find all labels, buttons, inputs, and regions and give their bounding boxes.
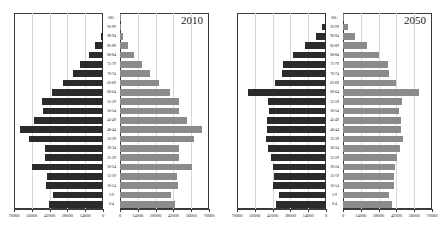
x-axis-tick (361, 209, 362, 212)
bar-female (343, 182, 394, 189)
age-group-label: 85-89 (326, 41, 343, 50)
age-group-label: 50-54 (326, 106, 343, 115)
bar-male (316, 33, 326, 40)
age-group-label: 90-94 (326, 32, 343, 41)
bar-female (343, 42, 367, 49)
age-group-label: 80-84 (326, 50, 343, 59)
bar-female (343, 164, 395, 171)
pyramid-row: 60-64 (14, 88, 209, 97)
bar-female (120, 136, 194, 143)
pyramid-row: 20-24 (237, 162, 432, 171)
bar-female (120, 61, 142, 68)
pyramid-row: 10-14 (237, 181, 432, 190)
bar-male (273, 182, 326, 189)
pyramid-row: 65-69 (237, 78, 432, 87)
x-axis-tick-label: 28000 (373, 213, 384, 218)
bar-male (32, 164, 103, 171)
age-group-label: 5-9 (326, 190, 343, 199)
x-axis-tick (308, 209, 309, 212)
bar-female (120, 24, 121, 31)
x-axis-male-2050 (237, 209, 326, 210)
age-group-label: 40-44 (103, 125, 120, 134)
x-axis-tick (173, 209, 174, 212)
bar-female (120, 98, 179, 105)
bar-male (275, 80, 326, 87)
x-axis-tick (237, 209, 238, 212)
pyramid-row: 70-74 (237, 69, 432, 78)
bar-male (267, 126, 326, 133)
age-group-label: 100+ (326, 13, 343, 22)
bar-male (283, 61, 326, 68)
bar-male (46, 182, 103, 189)
bar-female (343, 61, 388, 68)
pyramid-row: 90-94 (14, 32, 209, 41)
bar-female (343, 145, 400, 152)
bar-male (29, 136, 103, 143)
age-group-label: 5-9 (103, 190, 120, 199)
age-group-label: 90-94 (103, 32, 120, 41)
bar-male (63, 80, 103, 87)
age-group-label: 45-49 (103, 116, 120, 125)
age-group-label: 15-19 (103, 172, 120, 181)
bar-male (89, 52, 103, 59)
pyramid-row: 5-9 (237, 190, 432, 199)
pyramid-row: 15-19 (14, 172, 209, 181)
pyramid-row: 40-44 (237, 125, 432, 134)
age-group-label: 25-29 (103, 153, 120, 162)
pyramid-row: 55-59 (14, 97, 209, 106)
bar-female (343, 98, 402, 105)
bar-female (120, 182, 178, 189)
pyramid-row: 55-59 (237, 97, 432, 106)
age-group-label: 75-79 (326, 60, 343, 69)
pyramid-row: 75-79 (14, 60, 209, 69)
age-group-label: 65-69 (326, 78, 343, 87)
pyramid-row: 100+ (237, 13, 432, 22)
x-axis-tick-label: 0 (119, 213, 121, 218)
x-axis-tick-label: 14000 (355, 213, 366, 218)
bar-rows-2010: 100+95-9990-9485-8980-8475-7970-7465-696… (14, 13, 209, 209)
bar-male (271, 154, 326, 161)
x-axis-tick (273, 209, 274, 212)
pyramid-row: 35-39 (14, 134, 209, 143)
age-group-label: 0-4 (326, 200, 343, 209)
bar-female (120, 192, 171, 199)
bar-male (47, 173, 103, 180)
pyramid-row: 30-34 (14, 144, 209, 153)
bar-male (248, 89, 326, 96)
pyramid-row: 50-54 (237, 106, 432, 115)
year-label-2010: 2010 (181, 14, 203, 26)
x-axis-tick (85, 209, 86, 212)
x-axis-tick (14, 209, 15, 212)
x-axis-tick (103, 209, 104, 212)
bar-male (34, 117, 103, 124)
x-axis-tick (343, 209, 344, 212)
x-axis-tick-label: 56000 (409, 213, 420, 218)
x-axis-tick-label: 56000 (26, 213, 37, 218)
bar-female (120, 164, 192, 171)
x-axis-tick-label: 42000 (267, 213, 278, 218)
bar-male (45, 154, 103, 161)
age-group-label: 0-4 (103, 200, 120, 209)
pyramid-row: 50-54 (14, 106, 209, 115)
x-axis-tick-label: 0 (342, 213, 344, 218)
pyramid-row: 45-49 (14, 116, 209, 125)
age-group-label: 35-39 (103, 134, 120, 143)
bar-male (293, 52, 326, 59)
x-axis-tick (255, 209, 256, 212)
bar-female (120, 70, 150, 77)
bar-male (282, 70, 327, 77)
age-group-label: 35-39 (326, 134, 343, 143)
x-axis-male-2010 (14, 209, 103, 210)
age-group-label: 65-69 (103, 78, 120, 87)
pyramid-row: 25-29 (237, 153, 432, 162)
x-axis-tick-label: 14000 (132, 213, 143, 218)
pyramid-row: 95-99 (14, 22, 209, 31)
x-axis-tick (414, 209, 415, 212)
plot-area-2050: 100+95-9990-9485-8980-8475-7970-7465-696… (237, 13, 432, 209)
x-axis-tick (209, 209, 210, 212)
bar-male (95, 42, 103, 49)
bar-male (52, 89, 103, 96)
bar-male (266, 136, 326, 143)
x-axis-tick (290, 209, 291, 212)
bar-male (268, 98, 326, 105)
